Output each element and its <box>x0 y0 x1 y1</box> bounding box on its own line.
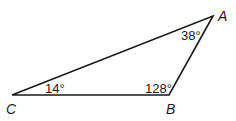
vertex-label-c: C <box>6 102 16 116</box>
vertex-label-a: A <box>218 9 227 23</box>
angle-label-a: 38° <box>181 29 201 42</box>
vertex-label-b: B <box>166 102 175 116</box>
angle-label-b: 128° <box>145 82 172 95</box>
angle-label-c: 14° <box>45 82 65 95</box>
triangle-diagram <box>0 0 236 121</box>
